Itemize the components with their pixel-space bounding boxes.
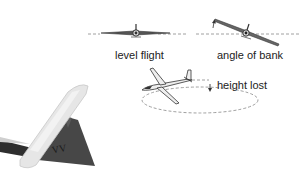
angle-of-bank-label: angle of bank <box>217 50 283 61</box>
height-lost-label: height lost <box>217 80 267 91</box>
glider-turn-diagram: VV level flight angle of bank height los… <box>0 0 299 186</box>
banked-glider <box>196 19 299 46</box>
level-flight-glider <box>88 24 186 37</box>
level-flight-label: level flight <box>115 50 164 61</box>
diagram-artwork: VV <box>0 0 299 186</box>
glider-tail-illustration: VV <box>0 85 95 168</box>
